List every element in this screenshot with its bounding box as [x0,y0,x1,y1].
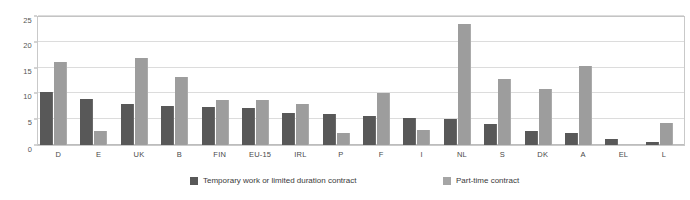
bar [337,133,350,145]
bar-group [603,16,643,145]
x-axis-tick-label: IRL [294,150,306,159]
x-axis-tick-label: A [580,150,585,159]
x-axis-tick-label: L [662,150,666,159]
bar-group [523,16,563,145]
bar [363,116,376,145]
bar [296,104,309,145]
bar [646,142,659,145]
bar-group [321,16,361,145]
bar [444,119,457,145]
bar [121,104,134,145]
x-axis-tick-label: F [379,150,384,159]
bar [40,92,53,145]
legend-label: Part-time contract [456,176,519,185]
bar [282,113,295,145]
bar [498,79,511,145]
bar [417,130,430,145]
bar-group [78,16,118,145]
x-axis-tick-label: B [177,150,182,159]
y-axis-tick-label: 25 [23,16,32,17]
bar [135,58,148,145]
bar-group [442,16,482,145]
x-axis-tick-label: EU-15 [249,150,271,159]
x-axis-labels: DEUKBFINEU-15IRLPFINLSDKAELL [38,148,684,164]
x-axis-tick-label: EL [619,150,629,159]
legend-swatch-icon [190,177,198,185]
bar-group [159,16,199,145]
bar-group [361,16,401,145]
y-axis-tick-label: 0 [28,145,32,146]
bar-group [200,16,240,145]
bar [94,131,107,145]
bar-group [644,16,684,145]
bars-layer [38,16,684,145]
legend-item-temporary-work: Temporary work or limited duration contr… [190,176,356,185]
bar-group [240,16,280,145]
bar-group [482,16,522,145]
x-axis-tick-label: NL [457,150,467,159]
x-axis-tick-label: UK [134,150,145,159]
y-axis-tick-label: 15 [23,67,32,68]
bar [660,123,673,145]
bar-group [38,16,78,145]
x-axis-tick-label: FIN [213,150,226,159]
legend-swatch-icon [443,177,451,185]
bar [484,124,497,145]
bar [323,114,336,145]
legend-item-part-time: Part-time contract [443,176,519,185]
y-axis: 0510152025 [0,16,37,146]
bar-group [119,16,159,145]
bar [539,89,552,145]
bar [605,139,618,145]
bar [565,133,578,145]
bar [175,77,188,145]
y-axis-tick-label: 20 [23,41,32,42]
bar [458,24,471,145]
chart-legend: Temporary work or limited duration contr… [0,176,690,194]
bar [403,118,416,145]
x-axis-tick-label: E [96,150,101,159]
bar [579,66,592,145]
x-axis-tick-label: DK [537,150,548,159]
bar [377,93,390,145]
x-axis-tick-label: P [338,150,343,159]
bar-chart: 0510152025 DEUKBFINEU-15IRLPFINLSDKAELL … [0,0,690,200]
bar [216,100,229,145]
bar-group [280,16,320,145]
bar [242,108,255,145]
bar [54,62,67,145]
x-axis-tick-label: S [500,150,505,159]
bar [80,99,93,145]
bar [202,107,215,145]
bar [256,100,269,145]
bar [161,106,174,145]
y-axis-tick-label: 5 [28,119,32,120]
x-axis-tick-label: D [55,150,61,159]
x-axis-tick-label: I [420,150,422,159]
bar [525,131,538,145]
legend-label: Temporary work or limited duration contr… [203,176,356,185]
bar-group [401,16,441,145]
bar-group [563,16,603,145]
y-axis-tick-label: 10 [23,93,32,94]
